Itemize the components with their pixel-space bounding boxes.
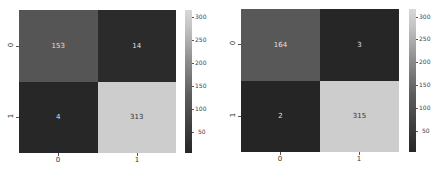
- cell-0-1: 3: [320, 9, 399, 81]
- cbtick-mark: [192, 109, 194, 110]
- cell-0-0: 153: [19, 10, 98, 82]
- cbtick-label: 250: [419, 35, 430, 42]
- cbtick-label: 150: [195, 82, 206, 89]
- ytick-mark-0: [16, 46, 19, 47]
- cbtick-label: 50: [198, 128, 206, 135]
- heatmap-grid: 153 14 4 313: [19, 10, 176, 153]
- cbtick-label: 250: [195, 36, 206, 43]
- cbtick-mark: [192, 86, 194, 87]
- cbtick-mark: [192, 63, 194, 64]
- ytick-label-1: 1: [7, 111, 15, 121]
- cbtick-mark: [416, 108, 418, 109]
- cbtick-mark: [416, 85, 418, 86]
- cbtick-mark: [416, 17, 418, 18]
- ytick-label-1: 1: [229, 110, 237, 120]
- cell-1-0: 4: [19, 82, 98, 154]
- cbtick-mark: [416, 131, 418, 132]
- cell-1-0: 2: [241, 81, 320, 153]
- colorbar: [185, 10, 192, 153]
- confusion-matrix-left: 153 14 4 313 0 1 0 1 300 250 200 150 100…: [0, 0, 220, 174]
- xtick-label-1: 1: [131, 156, 143, 164]
- cell-0-0: 164: [241, 9, 320, 81]
- cbtick-label: 300: [419, 13, 430, 20]
- cell-1-1: 315: [320, 81, 399, 153]
- cell-0-1: 14: [98, 10, 177, 82]
- cbtick-mark: [192, 17, 194, 18]
- cbtick-mark: [416, 62, 418, 63]
- xtick-label-0: 0: [52, 156, 64, 164]
- xtick-label-0: 0: [274, 155, 286, 163]
- heatmap-grid: 164 3 2 315: [241, 9, 399, 152]
- cbtick-label: 300: [195, 13, 206, 20]
- ytick-mark-1: [238, 116, 241, 117]
- ytick-mark-0: [238, 44, 241, 45]
- colorbar: [409, 9, 416, 152]
- cell-1-1: 313: [98, 82, 177, 154]
- cbtick-label: 200: [195, 59, 206, 66]
- xtick-label-1: 1: [353, 155, 365, 163]
- cbtick-label: 200: [419, 58, 430, 65]
- confusion-matrix-right: 164 3 2 315 0 1 0 1 300 250 200 150 100 …: [220, 0, 441, 174]
- ytick-mark-1: [16, 117, 19, 118]
- cbtick-mark: [192, 40, 194, 41]
- cbtick-mark: [192, 132, 194, 133]
- ytick-label-0: 0: [7, 40, 15, 50]
- cbtick-label: 100: [419, 104, 430, 111]
- cbtick-label: 50: [422, 127, 430, 134]
- cbtick-label: 100: [195, 105, 206, 112]
- ytick-label-0: 0: [229, 38, 237, 48]
- cbtick-mark: [416, 39, 418, 40]
- cbtick-label: 150: [419, 81, 430, 88]
